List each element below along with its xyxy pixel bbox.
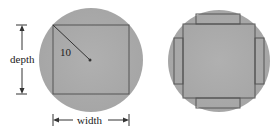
left-figure: 10 depth width	[10, 8, 143, 126]
center-point	[89, 59, 92, 62]
radius-label: 10	[60, 46, 72, 58]
depth-dimension: depth	[10, 25, 35, 94]
width-label: width	[77, 114, 103, 126]
width-dimension: width	[53, 114, 129, 126]
right-figure	[168, 10, 270, 112]
depth-label: depth	[10, 53, 35, 65]
diagram: 10 depth width	[0, 0, 279, 134]
